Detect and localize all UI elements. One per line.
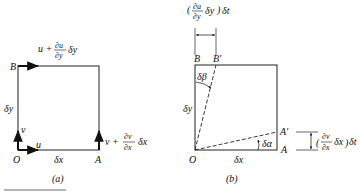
point-b-label: B <box>10 61 16 72</box>
point-b-label: B <box>194 53 200 64</box>
point-a-label: A <box>94 154 102 165</box>
svg-text:(: ( <box>187 4 191 16</box>
right-suffix: δx <box>138 136 148 147</box>
alpha-angle-arrow-icon <box>258 140 259 150</box>
right-disp-num: ∂v <box>322 132 330 141</box>
caption-a: (a) <box>52 173 64 185</box>
v-label: v <box>21 124 26 135</box>
point-a-prime-label: A' <box>279 126 289 137</box>
dx-label: δx <box>54 154 64 165</box>
point-o-label: O <box>13 154 20 165</box>
right-v-prefix: v + <box>105 136 119 147</box>
dx-label: δx <box>234 154 244 165</box>
fluid-element-deformation-diagram: B O A δx δy v u u + ∂u ∂y δy v + ∂v ∂x δ… <box>0 0 360 191</box>
top-disp-num: ∂u <box>193 2 201 11</box>
alpha-label: δα <box>262 138 273 149</box>
point-o-label: O <box>189 154 196 165</box>
svg-text:): ) <box>216 4 221 16</box>
u-label: u <box>36 139 41 150</box>
top-den: ∂y <box>55 51 63 60</box>
beta-label: δβ <box>197 71 207 82</box>
point-b-prime-label: B' <box>213 53 222 64</box>
beta-angle-arrow-icon <box>196 82 211 88</box>
point-a-label: A <box>280 144 288 155</box>
top-num: ∂u <box>55 41 63 50</box>
panel-b: ( ∂u ∂y δy ) δt B B' δβ δα δy O δx A' A … <box>183 2 357 185</box>
top-suffix: δy <box>68 44 78 55</box>
right-disp-mid: δx <box>334 136 344 147</box>
dy-label: δy <box>183 103 193 114</box>
svg-text:(: ( <box>316 137 320 149</box>
right-disp-dt: δt <box>349 136 357 147</box>
dy-label: δy <box>4 103 14 114</box>
fluid-element-square <box>18 66 99 150</box>
top-disp-dt: δt <box>222 5 230 16</box>
top-disp-mid: δy <box>205 5 215 16</box>
top-u-prefix: u + <box>38 43 52 54</box>
right-den: ∂x <box>124 143 132 152</box>
panel-a: B O A δx δy v u u + ∂u ∂y δy v + ∂v ∂x δ… <box>4 41 148 190</box>
caption-b: (b) <box>226 173 238 185</box>
right-disp-den: ∂x <box>322 143 330 152</box>
right-num: ∂v <box>124 132 132 141</box>
top-disp-den: ∂y <box>193 12 201 21</box>
